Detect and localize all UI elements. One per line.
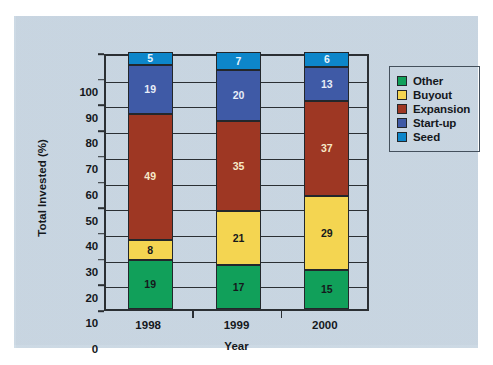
chart-figure: Total Invested (%) 010203040506070809010… bbox=[0, 0, 493, 365]
bar-segment-value-label: 35 bbox=[233, 161, 245, 172]
bar-segment: 29 bbox=[304, 196, 349, 271]
x-axis-tick-label: 1999 bbox=[224, 319, 250, 331]
y-axis-tick-mark bbox=[98, 79, 104, 81]
legend-swatch-icon bbox=[397, 90, 407, 100]
bar-segment-value-label: 29 bbox=[321, 228, 333, 239]
y-axis-tick-label: 60 bbox=[86, 189, 98, 201]
y-axis-tick-mark bbox=[98, 130, 104, 132]
legend-swatch-icon bbox=[397, 118, 407, 128]
y-axis-tick-label: 100 bbox=[79, 86, 98, 98]
y-axis-tick-label: 80 bbox=[86, 137, 98, 149]
bar-segment: 17 bbox=[216, 265, 261, 309]
bar-segment: 35 bbox=[216, 121, 261, 211]
y-axis-tick-mark bbox=[98, 207, 104, 209]
y-axis-tick-label: 50 bbox=[86, 215, 98, 227]
legend-item-label: Buyout bbox=[413, 89, 452, 101]
bar-segment: 8 bbox=[128, 240, 173, 261]
y-axis-tick-mark bbox=[98, 259, 104, 261]
bar-segment-value-label: 20 bbox=[233, 90, 245, 101]
x-axis-tick-label: 2000 bbox=[312, 319, 338, 331]
bar-segment-value-label: 7 bbox=[236, 56, 242, 67]
bar-segment: 19 bbox=[128, 260, 173, 309]
y-axis-tick-label: 30 bbox=[86, 266, 98, 278]
bar-segment: 6 bbox=[304, 52, 349, 67]
bar-segment-value-label: 21 bbox=[233, 233, 245, 244]
x-axis-tick-mark bbox=[192, 311, 194, 318]
y-axis-tick-mark bbox=[98, 285, 104, 287]
y-axis-tick-labels: 0102030405060708090100 bbox=[60, 54, 98, 311]
bar-segment: 13 bbox=[304, 67, 349, 100]
x-axis-tick-label: 1998 bbox=[135, 319, 161, 331]
bar-segment-value-label: 37 bbox=[321, 143, 333, 154]
chart-panel: Total Invested (%) 010203040506070809010… bbox=[14, 16, 478, 348]
bar-segment: 15 bbox=[304, 270, 349, 309]
bar-segment-value-label: 49 bbox=[144, 171, 156, 182]
bar-segment: 37 bbox=[304, 101, 349, 196]
y-axis-tick-label: 40 bbox=[86, 240, 98, 252]
bar-segment: 7 bbox=[216, 52, 261, 70]
y-axis-tick-mark bbox=[98, 105, 104, 107]
y-axis-title: Total Invested (%) bbox=[36, 98, 48, 278]
legend-item-label: Other bbox=[413, 75, 443, 87]
legend-swatch-icon bbox=[397, 76, 407, 86]
plot-area: 19849195172135207152937136 bbox=[104, 54, 369, 311]
y-axis-tick-label: 10 bbox=[86, 317, 98, 329]
bar-column: 172135207 bbox=[216, 52, 261, 309]
legend-item: Buyout bbox=[397, 88, 470, 102]
x-axis-title: Year bbox=[104, 340, 369, 352]
legend-item: Start-up bbox=[397, 116, 470, 130]
bar-segment-value-label: 17 bbox=[233, 282, 245, 293]
bar-segment-value-label: 19 bbox=[144, 84, 156, 95]
x-axis-tick-mark bbox=[281, 311, 283, 318]
bar-segment: 5 bbox=[128, 52, 173, 65]
y-axis-tick-label: 70 bbox=[86, 163, 98, 175]
legend-item: Seed bbox=[397, 130, 470, 144]
legend-item-label: Expansion bbox=[413, 103, 470, 115]
bar-segment: 20 bbox=[216, 70, 261, 121]
y-axis-tick-label: 20 bbox=[86, 292, 98, 304]
bar-segment: 49 bbox=[128, 114, 173, 240]
bar-segment-value-label: 5 bbox=[147, 53, 153, 64]
legend-item-label: Start-up bbox=[413, 117, 456, 129]
bar-column: 152937136 bbox=[304, 52, 349, 309]
bar-segment-value-label: 19 bbox=[144, 279, 156, 290]
y-axis-tick-mark bbox=[98, 310, 104, 312]
bar-segment-value-label: 13 bbox=[321, 79, 333, 90]
bar-segment-value-label: 15 bbox=[321, 284, 333, 295]
chart-legend: OtherBuyoutExpansionStart-upSeed bbox=[389, 66, 480, 152]
bar-segment-value-label: 6 bbox=[324, 54, 330, 65]
legend-item: Expansion bbox=[397, 102, 470, 116]
legend-item-label: Seed bbox=[413, 131, 440, 143]
legend-swatch-icon bbox=[397, 132, 407, 142]
y-axis-tick-label: 0 bbox=[92, 343, 98, 355]
legend-item: Other bbox=[397, 74, 470, 88]
y-axis-tick-label: 90 bbox=[86, 112, 98, 124]
y-axis-tick-mark bbox=[98, 233, 104, 235]
y-axis-tick-mark bbox=[98, 182, 104, 184]
bar-segment: 21 bbox=[216, 211, 261, 265]
y-axis-tick-mark bbox=[98, 53, 104, 55]
legend-swatch-icon bbox=[397, 104, 407, 114]
bar-segment: 19 bbox=[128, 65, 173, 114]
bar-column: 19849195 bbox=[128, 52, 173, 309]
bar-segment-value-label: 8 bbox=[147, 245, 153, 256]
y-axis-tick-mark bbox=[98, 156, 104, 158]
